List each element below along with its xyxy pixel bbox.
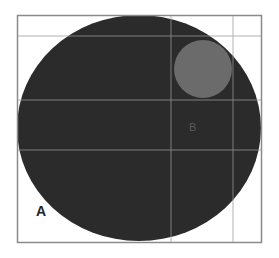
small-circle-b — [174, 40, 232, 98]
venn-diagram: A B — [0, 0, 279, 258]
label-b: B — [189, 121, 196, 133]
label-a: A — [36, 203, 46, 219]
large-circle-a — [17, 15, 261, 241]
